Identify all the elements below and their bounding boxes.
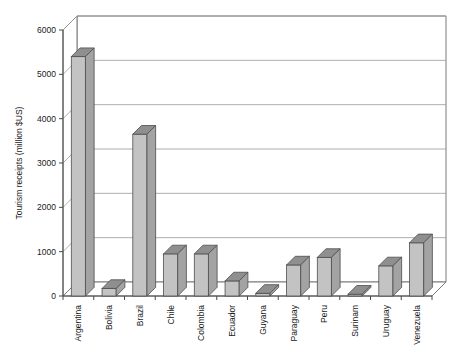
bar-front-face xyxy=(225,281,239,296)
bar-side-face xyxy=(331,249,340,296)
y-tick-label: 1000 xyxy=(37,247,56,257)
bar-front-face xyxy=(102,288,116,296)
bar-front-face xyxy=(410,243,424,296)
bar-front-face xyxy=(194,254,208,296)
x-tick-label: Surinam xyxy=(350,305,360,337)
bar-uruguay xyxy=(379,257,402,296)
x-tick-label: Paraguay xyxy=(289,304,299,341)
y-tick-label: 3000 xyxy=(37,158,56,168)
bar-front-face xyxy=(287,265,301,296)
bar-front-face xyxy=(71,57,85,296)
x-tick-label: Guyana xyxy=(258,305,268,335)
bar-side-face xyxy=(208,245,217,296)
bar-paraguay xyxy=(287,256,310,296)
x-tick-label: Uruguay xyxy=(381,304,391,337)
x-tick-label: Venezuela xyxy=(412,305,422,345)
bar-side-face xyxy=(178,245,187,296)
bar-chile xyxy=(164,245,187,296)
x-tick-label: Brazil xyxy=(135,305,145,326)
bar-peru xyxy=(317,249,340,296)
bar-front-face xyxy=(379,266,393,296)
y-tick-label: 6000 xyxy=(37,25,56,35)
chart-container: 0100020003000400050006000Tourism receipt… xyxy=(0,0,452,357)
x-tick-label: Ecuador xyxy=(227,305,237,337)
x-tick-label: Bolivia xyxy=(104,305,114,330)
y-axis-title: Tourism receipts (million $US) xyxy=(14,106,24,219)
y-tick-label: 4000 xyxy=(37,114,56,124)
bar-front-face xyxy=(164,254,178,296)
bar-argentina xyxy=(71,48,94,296)
y-tick-label: 2000 xyxy=(37,202,56,212)
bar-colombia xyxy=(194,245,217,296)
bar-venezuela xyxy=(410,234,433,296)
bar-side-face xyxy=(85,48,94,296)
x-tick-label: Peru xyxy=(319,305,329,323)
bar-front-face xyxy=(317,257,331,296)
y-tick-label: 5000 xyxy=(37,69,56,79)
y-tick-label: 0 xyxy=(51,291,56,301)
bar-front-face xyxy=(133,134,147,296)
x-tick-label: Chile xyxy=(166,305,176,325)
bar-chart: 0100020003000400050006000Tourism receipt… xyxy=(0,0,452,357)
bar-side-face xyxy=(147,126,156,296)
bar-side-face xyxy=(424,234,433,296)
x-tick-label: Argentina xyxy=(73,305,83,342)
x-tick-label: Colombia xyxy=(196,305,206,341)
bar-brazil xyxy=(133,126,156,296)
